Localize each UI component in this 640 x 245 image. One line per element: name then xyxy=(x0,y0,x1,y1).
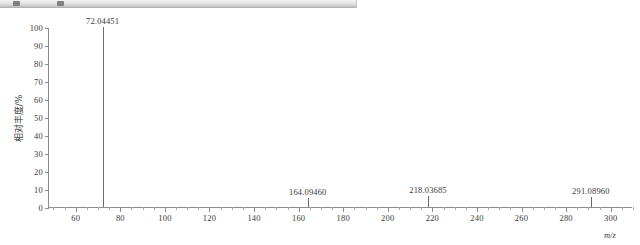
y-axis-title-label: 相对丰度/% xyxy=(13,94,26,142)
y-axis-tick xyxy=(45,172,49,173)
plot-area: 0102030405060708090100608010012014016018… xyxy=(48,28,632,208)
x-axis-minor-tick xyxy=(633,207,634,210)
x-axis-minor-tick xyxy=(421,207,422,210)
y-axis-tick xyxy=(45,154,49,155)
y-axis-tick xyxy=(45,118,49,119)
x-axis-tick xyxy=(120,207,121,212)
x-axis-minor-tick xyxy=(544,207,545,210)
x-axis-tick xyxy=(76,207,77,212)
y-axis-tick xyxy=(45,208,49,209)
y-axis-tick xyxy=(45,46,49,47)
x-axis-minor-tick xyxy=(488,207,489,210)
y-axis-tick-label: 30 xyxy=(34,149,43,159)
x-axis-tick-label: 240 xyxy=(470,213,483,223)
x-axis-minor-tick xyxy=(377,207,378,210)
toolbar-button-2[interactable] xyxy=(57,1,64,6)
x-axis-minor-tick xyxy=(98,207,99,210)
spectrum-peak xyxy=(428,196,429,207)
x-axis-minor-tick xyxy=(310,207,311,210)
y-axis-tick-label: 80 xyxy=(34,59,43,69)
x-axis-title: m/z xyxy=(604,230,616,240)
y-axis-tick xyxy=(45,190,49,191)
x-axis-minor-tick xyxy=(109,207,110,210)
x-axis-minor-tick xyxy=(588,207,589,210)
x-axis-minor-tick xyxy=(276,207,277,210)
peak-label: 291.08960 xyxy=(572,186,609,196)
y-axis-tick xyxy=(45,28,49,29)
x-axis-minor-tick xyxy=(288,207,289,210)
x-axis-minor-tick xyxy=(53,207,54,210)
y-axis-tick xyxy=(45,136,49,137)
x-axis-minor-tick xyxy=(243,207,244,210)
x-axis-minor-tick xyxy=(410,207,411,210)
x-axis-minor-tick xyxy=(143,207,144,210)
x-axis-tick-label: 120 xyxy=(203,213,216,223)
x-axis-minor-tick xyxy=(221,207,222,210)
x-axis-minor-tick xyxy=(366,207,367,210)
x-axis-tick xyxy=(522,207,523,212)
x-axis-tick xyxy=(343,207,344,212)
peak-label: 72.04451 xyxy=(86,16,119,26)
toolbar-button-1[interactable] xyxy=(13,1,20,6)
x-axis-minor-tick xyxy=(622,207,623,210)
y-axis-tick xyxy=(45,100,49,101)
x-axis-minor-tick xyxy=(555,207,556,210)
peak-label: 164.09460 xyxy=(289,187,326,197)
x-axis-minor-tick xyxy=(399,207,400,210)
y-axis-title: 相对丰度/% xyxy=(12,28,26,208)
x-axis-minor-tick xyxy=(265,207,266,210)
x-axis-minor-tick xyxy=(131,207,132,210)
toolbar-strip[interactable] xyxy=(0,0,357,8)
x-axis-minor-tick xyxy=(176,207,177,210)
y-axis-tick-label: 60 xyxy=(34,95,43,105)
x-axis-tick-label: 200 xyxy=(381,213,394,223)
y-axis-tick xyxy=(45,82,49,83)
x-axis-tick-label: 220 xyxy=(426,213,439,223)
spectrum-peak xyxy=(308,198,309,207)
x-axis-tick xyxy=(254,207,255,212)
y-axis-tick-label: 40 xyxy=(34,131,43,141)
x-axis-tick xyxy=(299,207,300,212)
x-axis-minor-tick xyxy=(466,207,467,210)
y-axis-tick-label: 50 xyxy=(34,113,43,123)
y-axis-tick-label: 10 xyxy=(34,185,43,195)
x-axis-minor-tick xyxy=(533,207,534,210)
x-axis-tick-label: 140 xyxy=(247,213,260,223)
x-axis-tick xyxy=(432,207,433,212)
x-axis-minor-tick xyxy=(499,207,500,210)
y-axis-tick xyxy=(45,64,49,65)
x-axis-tick-label: 80 xyxy=(116,213,125,223)
y-axis-tick-label: 0 xyxy=(39,203,43,213)
mass-spectrum-chart: 相对丰度/% 010203040506070809010060801001201… xyxy=(0,8,640,245)
x-axis-minor-tick xyxy=(600,207,601,210)
peak-label: 218.03685 xyxy=(409,185,446,195)
y-axis-tick-label: 70 xyxy=(34,77,43,87)
x-axis-minor-tick xyxy=(354,207,355,210)
x-axis-tick-label: 260 xyxy=(515,213,528,223)
x-axis-tick xyxy=(477,207,478,212)
x-axis-tick xyxy=(165,207,166,212)
x-axis-tick-label: 60 xyxy=(71,213,80,223)
x-axis-tick-label: 160 xyxy=(292,213,305,223)
x-axis-minor-tick xyxy=(65,207,66,210)
x-axis-tick-label: 100 xyxy=(158,213,171,223)
x-axis-minor-tick xyxy=(321,207,322,210)
x-axis-minor-tick xyxy=(87,207,88,210)
x-axis-minor-tick xyxy=(577,207,578,210)
x-axis-minor-tick xyxy=(332,207,333,210)
x-axis-tick-label: 300 xyxy=(604,213,617,223)
y-axis-tick-label: 20 xyxy=(34,167,43,177)
x-axis-tick xyxy=(611,207,612,212)
x-axis-tick-label: 280 xyxy=(559,213,572,223)
x-axis-minor-tick xyxy=(232,207,233,210)
x-axis-tick xyxy=(566,207,567,212)
y-axis-tick-label: 100 xyxy=(30,23,43,33)
x-axis-minor-tick xyxy=(187,207,188,210)
x-axis-minor-tick xyxy=(198,207,199,210)
x-axis-tick-label: 180 xyxy=(337,213,350,223)
x-axis-tick xyxy=(388,207,389,212)
x-axis-tick xyxy=(209,207,210,212)
y-axis-tick-label: 90 xyxy=(34,41,43,51)
spectrum-peak xyxy=(103,27,104,207)
x-axis-minor-tick xyxy=(154,207,155,210)
